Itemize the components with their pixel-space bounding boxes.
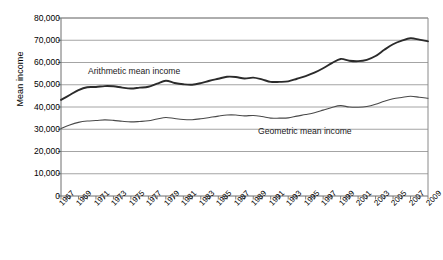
y-axis-tick-labels: 010,00020,00030,00040,00050,00060,00070,…	[10, 0, 60, 200]
y-tick-label: 50,000	[16, 80, 60, 89]
series-line-geometric	[61, 96, 428, 128]
y-tick-label: 0	[16, 192, 60, 201]
series-label-geometric: Geometric mean income	[258, 126, 352, 136]
y-tick-label: 40,000	[16, 103, 60, 112]
y-tick-label: 80,000	[16, 14, 60, 23]
y-tick-label: 30,000	[16, 125, 60, 134]
y-tick-label: 20,000	[16, 147, 60, 156]
y-tick-label: 70,000	[16, 36, 60, 45]
y-tick-label: 10,000	[16, 169, 60, 178]
series-label-arithmetic: Arithmetic mean income	[88, 66, 180, 76]
y-tick-label: 60,000	[16, 58, 60, 67]
